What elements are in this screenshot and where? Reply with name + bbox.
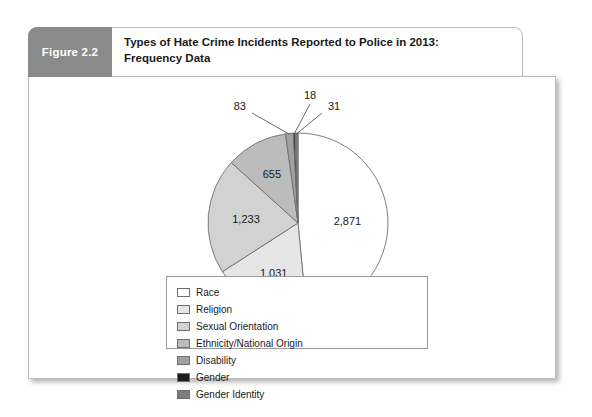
- pie-slice-label: 18: [304, 89, 316, 101]
- legend-item-label: Race: [196, 287, 219, 298]
- figure-number-tab: Figure 2.2: [28, 27, 112, 77]
- legend-item-label: Disability: [196, 355, 236, 366]
- legend-swatch-icon: [177, 390, 190, 399]
- pie-slice-label: 83: [234, 100, 246, 112]
- legend-swatch-icon: [177, 373, 190, 382]
- legend-item[interactable]: Gender: [177, 369, 309, 386]
- legend-item[interactable]: Gender Identity: [177, 386, 307, 403]
- legend-item[interactable]: Sexual Orientation: [177, 318, 307, 335]
- figure-title-line-1: Types of Hate Crime Incidents Reported t…: [124, 34, 504, 50]
- legend-item-label: Ethnicity/National Origin: [196, 338, 303, 349]
- legend-grid: RaceReligionSexual OrientationEthnicity/…: [177, 284, 427, 403]
- legend-item-label: Sexual Orientation: [196, 321, 278, 332]
- figure-title: Types of Hate Crime Incidents Reported t…: [124, 34, 504, 66]
- legend-item[interactable]: Race: [177, 284, 307, 301]
- legend-item-label: Gender: [196, 372, 229, 383]
- pie-label-leader-line: [252, 113, 290, 134]
- pie-slice-label: 31: [328, 100, 340, 112]
- pie-label-leader-line: [297, 113, 323, 134]
- figure-card: Figure 2.2 Types of Hate Crime Incidents…: [28, 27, 556, 379]
- pie-slice-label: 1,233: [232, 213, 260, 225]
- legend-item-label: Religion: [196, 304, 232, 315]
- legend-swatch-icon: [177, 322, 190, 331]
- legend-swatch-icon: [177, 356, 190, 365]
- pie-slice-label: 2,871: [334, 215, 362, 227]
- figure-title-line-2: Frequency Data: [124, 50, 504, 66]
- legend-swatch-icon: [177, 305, 190, 314]
- legend-item[interactable]: Disability: [177, 352, 307, 369]
- pie-slice-label: 655: [263, 168, 281, 180]
- figure-number-label: Figure 2.2: [42, 46, 98, 58]
- legend-swatch-icon: [177, 339, 190, 348]
- legend-item[interactable]: Ethnicity/National Origin: [177, 335, 309, 352]
- legend-item-label: Gender Identity: [196, 389, 264, 400]
- legend-item[interactable]: Religion: [177, 301, 309, 318]
- legend-swatch-icon: [177, 288, 190, 297]
- chart-legend: RaceReligionSexual OrientationEthnicity/…: [166, 276, 428, 349]
